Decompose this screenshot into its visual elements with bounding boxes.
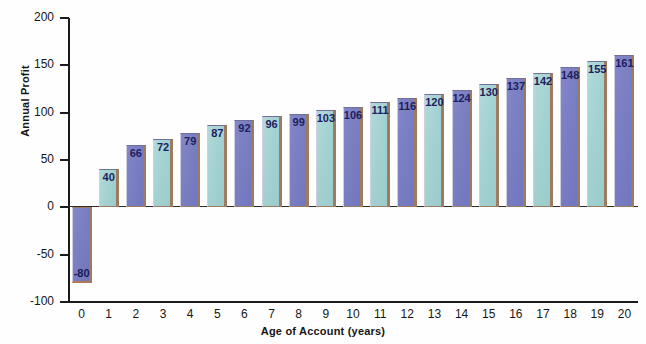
bar	[370, 102, 390, 207]
bar	[587, 61, 607, 208]
x-tick-label: 13	[419, 307, 449, 321]
x-tick-label: 12	[392, 307, 422, 321]
x-axis-title: Age of Account (years)	[0, 325, 646, 337]
bar-value-label: 161	[607, 57, 641, 69]
x-tick-label: 18	[555, 307, 585, 321]
bar-value-label: -80	[65, 267, 99, 279]
x-tick-label: 20	[609, 307, 639, 321]
x-tick-label: 10	[338, 307, 368, 321]
bar	[316, 110, 336, 208]
bar	[614, 55, 634, 207]
bar	[560, 67, 580, 207]
x-tick-label: 19	[582, 307, 612, 321]
y-tick-label: 200	[10, 10, 54, 24]
x-tick-label: 16	[501, 307, 531, 321]
x-tick-label: 11	[365, 307, 395, 321]
bar	[452, 90, 472, 207]
bar	[289, 114, 309, 208]
y-tick-label: 0	[10, 199, 54, 213]
y-tick-label: -50	[10, 247, 54, 261]
x-tick-label: 8	[284, 307, 314, 321]
x-tick-label: 7	[257, 307, 287, 321]
x-tick-label: 2	[121, 307, 151, 321]
x-tick-label: 17	[528, 307, 558, 321]
y-tick-label: 50	[10, 152, 54, 166]
bar-value-label: 40	[92, 171, 126, 183]
bar	[343, 107, 363, 207]
bar	[533, 73, 553, 207]
bar	[424, 94, 444, 208]
x-tick-label: 4	[175, 307, 205, 321]
bar	[506, 78, 526, 208]
bar	[479, 84, 499, 207]
y-axis-title: Annual Profit	[19, 31, 31, 171]
y-tick-label: -100	[10, 294, 54, 308]
x-tick-label: 14	[447, 307, 477, 321]
x-tick-label: 5	[202, 307, 232, 321]
bar-chart: Annual Profit -100-50050100150200 012345…	[0, 0, 646, 344]
x-tick-label: 1	[94, 307, 124, 321]
y-tick-label: 100	[10, 105, 54, 119]
x-tick-label: 3	[148, 307, 178, 321]
x-tick-label: 6	[229, 307, 259, 321]
bar	[397, 98, 417, 208]
y-tick-label: 150	[10, 57, 54, 71]
x-tick-label: 9	[311, 307, 341, 321]
plot-area: -804066727987929699103106111116120124130…	[68, 18, 638, 302]
x-tick-label: 0	[67, 307, 97, 321]
x-tick-label: 15	[474, 307, 504, 321]
